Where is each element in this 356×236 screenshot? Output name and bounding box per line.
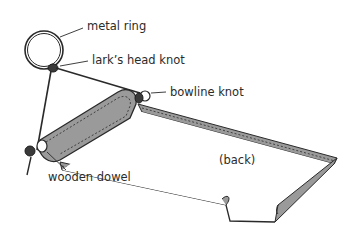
larks-head-leader bbox=[60, 61, 88, 66]
label-back: (back) bbox=[219, 155, 255, 167]
diagram-canvas: metal ring lark’s head knot bowline knot… bbox=[0, 0, 356, 236]
label-bowline-knot: bowline knot bbox=[170, 87, 244, 99]
sling-illustration bbox=[0, 0, 356, 236]
label-metal-ring: metal ring bbox=[87, 21, 146, 33]
label-larks-head-knot: lark’s head knot bbox=[92, 55, 185, 67]
label-wooden-dowel: wooden dowel bbox=[48, 172, 131, 184]
bowline-leader bbox=[151, 92, 166, 93]
metal-ring-icon bbox=[25, 31, 63, 69]
metal-ring-leader bbox=[60, 28, 83, 37]
